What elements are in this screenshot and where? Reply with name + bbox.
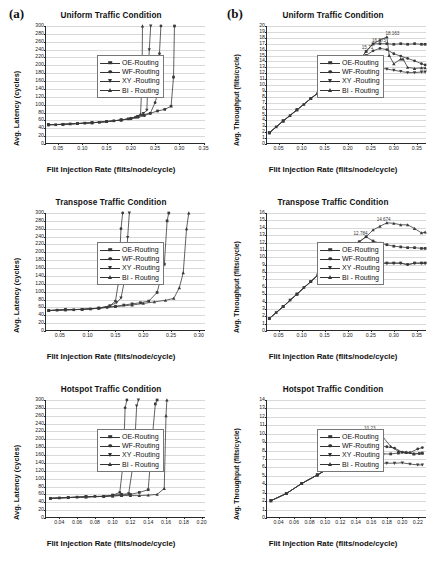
x-tick-label: 0.18 xyxy=(179,520,189,525)
y-tick-label: 140 xyxy=(35,273,44,278)
legend-item-xy-routing[interactable]: XY -Routing xyxy=(320,450,380,459)
legend-item-xy-routing[interactable]: XY -Routing xyxy=(100,450,160,459)
legend-item-xy-routing[interactable]: XY -Routing xyxy=(320,263,380,272)
figure-root: (a) Uniform Traffic ConditionAvg. Latenc… xyxy=(0,0,444,561)
legend-item-bi-routing[interactable]: BI - Routing xyxy=(320,273,380,282)
x-axis-label: Flit Injection Rate (flits/node/cycle) xyxy=(222,165,444,174)
legend-marker-icon xyxy=(100,450,120,459)
legend-marker-icon xyxy=(100,460,120,469)
x-tick-label: 0.25 xyxy=(150,146,160,151)
y-tick-label: 200 xyxy=(35,63,44,68)
y-tick-label: 260 xyxy=(35,226,44,231)
plot-area: 0204060801001201401601802002202402602803… xyxy=(45,400,205,518)
x-tick-label: 0.30 xyxy=(194,333,204,338)
y-tick-label: 180 xyxy=(35,71,44,76)
y-axis-label: Avg. Throughput (flits/cycle) xyxy=(233,428,240,520)
legend-marker-icon xyxy=(100,76,120,85)
plot-area: 012345678910111213141516171819200.050.10… xyxy=(266,26,426,144)
legend-item-xy-routing[interactable]: XY -Routing xyxy=(100,76,160,85)
x-tick-label: 0.04 xyxy=(274,520,284,525)
y-tick-mark xyxy=(44,144,46,145)
legend-item-wf-routing[interactable]: WF-Routing xyxy=(100,67,160,76)
legend-label: XY -Routing xyxy=(340,77,380,84)
legend-label: BI - Routing xyxy=(120,274,159,281)
legend-item-wf-routing[interactable]: WF-Routing xyxy=(100,441,160,450)
x-tick-label: 0.16 xyxy=(161,520,171,525)
x-axis-label: Flit Injection Rate (flits/node/cycle) xyxy=(222,352,444,361)
legend-item-xy-routing[interactable]: XY -Routing xyxy=(320,76,380,85)
legend-marker-icon xyxy=(320,76,340,85)
legend-marker-icon xyxy=(320,432,340,441)
legend-label: OE-Routing xyxy=(120,59,159,66)
chart-legend[interactable]: OE-RoutingWF-RoutingXY -RoutingBI - Rout… xyxy=(317,242,384,285)
x-axis-label: Flit Injection Rate (flits/node/cycle) xyxy=(0,539,222,548)
legend-label: WF-Routing xyxy=(120,255,159,262)
chart-legend[interactable]: OE-RoutingWF-RoutingXY -RoutingBI - Rout… xyxy=(97,242,164,285)
x-tick-label: 0.08 xyxy=(304,520,314,525)
legend-item-bi-routing[interactable]: BI - Routing xyxy=(100,86,160,95)
chart-legend[interactable]: OE-RoutingWF-RoutingXY -RoutingBI - Rout… xyxy=(97,429,164,472)
chart-legend[interactable]: OE-RoutingWF-RoutingXY -RoutingBI - Rout… xyxy=(317,429,384,472)
legend-item-wf-routing[interactable]: WF-Routing xyxy=(320,67,380,76)
chart-legend[interactable]: OE-RoutingWF-RoutingXY -RoutingBI - Rout… xyxy=(317,55,384,98)
legend-item-xy-routing[interactable]: XY -Routing xyxy=(100,263,160,272)
x-tick-label: 0.15 xyxy=(320,333,330,338)
x-tick-label: 0.06 xyxy=(289,520,299,525)
x-tick-label: 0.20 xyxy=(397,520,407,525)
x-tick-label: 0.35 xyxy=(412,333,422,338)
x-tick-label: 0.08 xyxy=(90,520,100,525)
x-tick-label: 0.18 xyxy=(382,520,392,525)
legend-label: XY -Routing xyxy=(120,451,160,458)
y-tick-label: 280 xyxy=(35,405,44,410)
legend-item-bi-routing[interactable]: BI - Routing xyxy=(100,460,160,469)
x-tick-label: 0.10 xyxy=(108,520,118,525)
legend-marker-icon xyxy=(320,58,340,67)
legend-item-oe-routing[interactable]: OE-Routing xyxy=(100,245,160,254)
y-tick-label: 160 xyxy=(35,78,44,83)
legend-item-oe-routing[interactable]: OE-Routing xyxy=(100,432,160,441)
data-point-annotation: 15.71 xyxy=(362,45,374,50)
y-axis-label: Avg. Throughput (flits/cycle) xyxy=(233,241,240,333)
x-tick-label: 0.20 xyxy=(343,146,353,151)
legend-item-wf-routing[interactable]: WF-Routing xyxy=(100,254,160,263)
legend-label: BI - Routing xyxy=(340,274,379,281)
legend-marker-icon xyxy=(100,58,120,67)
x-tick-label: 0.10 xyxy=(77,146,87,151)
y-tick-label: 280 xyxy=(35,218,44,223)
legend-label: XY -Routing xyxy=(120,264,160,271)
y-tick-label: 260 xyxy=(35,413,44,418)
chart-legend[interactable]: OE-RoutingWF-RoutingXY -RoutingBI - Rout… xyxy=(97,55,164,98)
legend-label: WF-Routing xyxy=(340,255,379,262)
legend-label: OE-Routing xyxy=(340,433,379,440)
y-tick-label: 100 xyxy=(35,289,44,294)
x-tick-label: 0.12 xyxy=(125,520,135,525)
plot-area: 012345678910111213140.040.060.080.100.12… xyxy=(266,400,426,518)
legend-label: XY -Routing xyxy=(340,451,380,458)
legend-item-oe-routing[interactable]: OE-Routing xyxy=(320,58,380,67)
legend-item-wf-routing[interactable]: WF-Routing xyxy=(320,254,380,263)
chart-title: Uniform Traffic Condition xyxy=(222,11,444,20)
legend-item-oe-routing[interactable]: OE-Routing xyxy=(100,58,160,67)
x-tick-label: 0.10 xyxy=(83,333,93,338)
legend-item-bi-routing[interactable]: BI - Routing xyxy=(320,460,380,469)
legend-label: XY -Routing xyxy=(120,77,160,84)
y-tick-label: 300 xyxy=(35,23,44,28)
legend-label: WF-Routing xyxy=(120,442,159,449)
legend-marker-icon xyxy=(100,432,120,441)
legend-marker-icon xyxy=(320,263,340,272)
y-axis-label: Avg. Latency (cycles) xyxy=(12,71,21,146)
y-tick-label: 240 xyxy=(35,47,44,52)
data-point-annotation: 14.674 xyxy=(377,217,391,222)
legend-label: WF-Routing xyxy=(340,442,379,449)
x-tick-label: 0.05 xyxy=(55,333,65,338)
y-tick-label: 300 xyxy=(35,397,44,402)
legend-item-oe-routing[interactable]: OE-Routing xyxy=(320,245,380,254)
legend-item-oe-routing[interactable]: OE-Routing xyxy=(320,432,380,441)
legend-item-bi-routing[interactable]: BI - Routing xyxy=(100,273,160,282)
legend-item-bi-routing[interactable]: BI - Routing xyxy=(320,86,380,95)
legend-item-wf-routing[interactable]: WF-Routing xyxy=(320,441,380,450)
x-tick-label: 0.04 xyxy=(54,520,64,525)
data-point-annotation: 16.975 xyxy=(372,38,386,43)
legend-marker-icon xyxy=(100,86,120,95)
x-tick-label: 0.06 xyxy=(72,520,82,525)
